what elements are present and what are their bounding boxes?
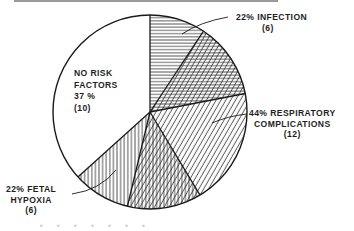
- label-respiratory: 44% RESPIRATORY COMPLICATIONS (12): [249, 108, 336, 140]
- label-respiratory-subtitle: COMPLICATIONS: [249, 119, 336, 130]
- label-no-risk-count: (10): [74, 103, 118, 115]
- label-hypoxia-count: (6): [6, 205, 56, 216]
- label-hypoxia-title: 22% FETAL: [6, 184, 56, 195]
- label-respiratory-title: 44% RESPIRATORY: [249, 108, 336, 119]
- label-no-risk: NO RISK FACTORS 37 % (10): [74, 68, 118, 114]
- cropped-caption-fragment: ▪ ▪ ▪ ▪ ▪ ▪ ▪: [40, 221, 320, 231]
- label-infection-count: (6): [236, 23, 307, 34]
- label-hypoxia-subtitle: HYPOXIA: [6, 195, 56, 206]
- label-respiratory-count: (12): [249, 129, 336, 140]
- label-infection-title: 22% INFECTION: [236, 12, 307, 23]
- label-no-risk-percent: 37 %: [74, 91, 118, 103]
- label-infection: 22% INFECTION (6): [236, 12, 307, 33]
- label-no-risk-line1: NO RISK: [74, 68, 118, 80]
- label-no-risk-line2: FACTORS: [74, 80, 118, 92]
- label-fetal-hypoxia: 22% FETAL HYPOXIA (6): [6, 184, 56, 216]
